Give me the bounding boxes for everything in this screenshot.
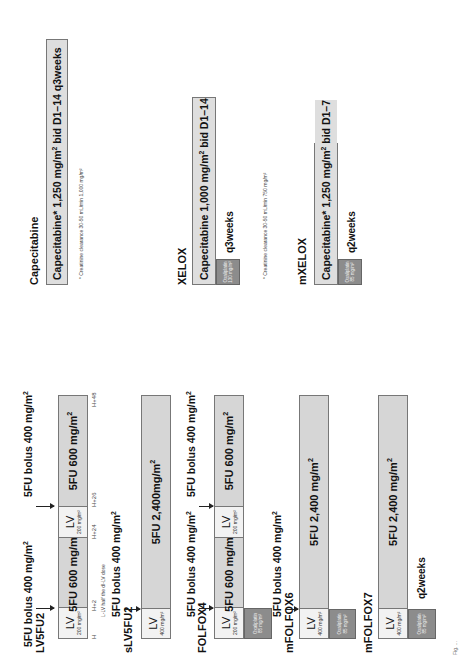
5fu-segment: 5FU 2,400mg/m2 — [142, 396, 170, 608]
regimen-label-folfox4: FOLFOX4 — [196, 602, 208, 653]
timepoint: H+48 — [91, 392, 97, 407]
5fu-segment: 5FU 600 mg/m2 — [215, 396, 243, 506]
lv-segment: LV 200 mg/m² — [59, 506, 87, 537]
timepoint: H — [91, 635, 97, 639]
regimen-label-slv5fu2: sLV5FU2 — [122, 607, 134, 653]
5fu-segment: 5FU 2,400 mg/m2 — [379, 396, 407, 608]
regimen-bar-mfolfox7: LV 400 mg/m² 5FU 2,400 mg/m2 — [378, 395, 408, 639]
regimen-label-mxelox: mXELOX — [296, 238, 308, 285]
5fu-segment: 5FU 600 mg/m2 — [59, 537, 87, 607]
bolus-label: 5FU bolus 400 mg/m2 — [185, 391, 197, 497]
regimen-label-mfolfox6: mFOLFOX6 — [283, 592, 295, 653]
bolus-label: 5FU bolus 400 mg/m2 — [185, 511, 197, 617]
creatinine-note: * Creatinine clearance 30-50 mL/min 750 … — [262, 173, 268, 279]
oxaliplatin-block: Oxaliplatin 130 mg/m² — [216, 259, 240, 285]
regimen-bar-capecitabine: Capecitabine* 1,250 mg/m2 bid D1–14 q3we… — [46, 39, 68, 285]
regimen-label-mfolfox7: mFOLFOX7 — [362, 592, 374, 653]
oxaliplatin-block: Oxaliplatin 85 mg/m² — [338, 259, 362, 285]
bolus-label: 5FU bolus 400 mg/m2 — [110, 511, 122, 617]
arrow-down-icon — [36, 506, 54, 507]
capecitabine-segment: Capecitabine 1,000 mg/m2 bid D1–14 — [193, 98, 215, 284]
lv-segment: LV 400 mg/m² — [142, 608, 170, 638]
bolus-label: 5FU bolus 400 mg/m2 — [22, 541, 34, 647]
regimen-figure: LV5FU2 5FU bolus 400 mg/m2 5FU bolus 400… — [0, 0, 462, 661]
5fu-segment: 5FU 600 mg/m2 — [59, 396, 87, 506]
5fu-segment: 5FU 2,400 mg/m2 — [300, 396, 328, 608]
timepoint: H+2 — [91, 600, 97, 611]
cycle-label: q3weeks — [224, 211, 235, 253]
timepoint: H+24 — [91, 524, 97, 539]
arrow-down-icon — [199, 608, 213, 609]
regimen-label-xelox: XELOX — [176, 248, 188, 285]
oxaliplatin-block: Oxaliplatin 85 mg/m² — [408, 609, 436, 639]
arrow-down-icon — [36, 608, 54, 609]
regimen-bar-mfolfox6: LV 400 mg/m² 5FU 2,400 mg/m2 — [299, 395, 329, 639]
figure-caption: Fig. ... — [452, 641, 458, 655]
capecitabine-segment: Capecitabine* 1,250 mg/m2 bid D1–7 — [315, 100, 337, 284]
timepoint: H+26 — [91, 492, 97, 507]
regimen-bar-folfox4: LV 200 mg/m² 5FU 600 mg/m2 LV 200 mg/m² … — [214, 395, 244, 639]
bolus-label: 5FU bolus 400 mg/m2 — [271, 511, 283, 617]
cycle-label: q2weeks — [346, 211, 357, 253]
lv-segment: LV 400 mg/m² — [300, 608, 328, 638]
regimen-bar-xelox: Capecitabine 1,000 mg/m2 bid D1–14 — [192, 97, 216, 285]
regimen-bar-mxelox: Capecitabine* 1,250 mg/m2 bid D1–7 — [314, 143, 338, 285]
lv-segment: LV 400 mg/m² — [379, 608, 407, 638]
arrow-down-icon — [124, 609, 140, 610]
regimen-bar-slv5fu2: LV 400 mg/m² 5FU 2,400mg/m2 — [141, 395, 171, 639]
regimen-label-lv5fu2: LV5FU2 — [34, 613, 46, 653]
lv-segment: LV 200 mg/m² — [215, 506, 243, 537]
lv-dose-note: L-LV half the dl-LV dose — [100, 564, 106, 617]
arrow-down-icon — [285, 609, 298, 610]
creatinine-note: * Creatinine clearance 30-50 mL/min 1,00… — [78, 168, 84, 279]
arrow-down-icon — [199, 506, 213, 507]
oxaliplatin-block: Oxaliplatin 85 mg/m² — [244, 608, 272, 639]
bolus-label: 5FU bolus 400 mg/m2 — [22, 391, 34, 497]
oxaliplatin-block: Oxaliplatin 85 mg/m² — [329, 609, 356, 639]
5fu-segment: 5FU 600 mg/m2 — [215, 537, 243, 607]
regimen-bar-lv5fu2: LV 200 mg/m² 5FU 600 mg/m2 LV 200 mg/m² … — [58, 395, 88, 639]
capecitabine-segment: Capecitabine* 1,250 mg/m2 bid D1–14 q3we… — [47, 40, 67, 284]
cycle-label: q2weeks — [416, 557, 427, 599]
regimen-label-capecitabine: Capecitabine — [28, 217, 40, 285]
